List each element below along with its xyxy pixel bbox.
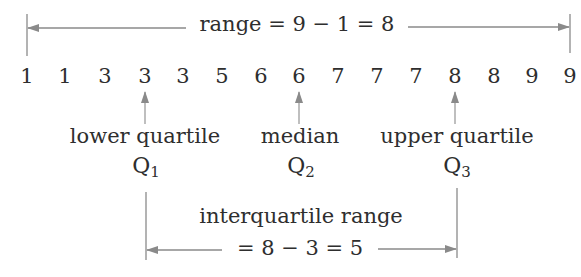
iqr-label: interquartile range <box>199 206 403 227</box>
data-value: 6 <box>254 66 267 87</box>
data-value: 3 <box>176 66 189 87</box>
data-value: 7 <box>370 66 383 87</box>
data-value: 3 <box>138 66 151 87</box>
q1-symbol: Q1 <box>132 155 160 180</box>
upper-quartile-label: upper quartile <box>380 126 533 147</box>
data-value: 7 <box>409 66 422 87</box>
data-value: 9 <box>525 66 538 87</box>
data-value: 5 <box>215 66 228 87</box>
q3-symbol: Q3 <box>443 155 471 180</box>
iqr-formula: = 8 − 3 = 5 <box>237 238 363 259</box>
data-value: 8 <box>487 66 500 87</box>
data-value: 7 <box>331 66 344 87</box>
data-value: 1 <box>58 66 71 87</box>
lower-quartile-label: lower quartile <box>70 126 220 147</box>
data-value: 9 <box>563 66 576 87</box>
data-value: 6 <box>292 66 305 87</box>
q2-symbol: Q2 <box>287 155 315 180</box>
data-value: 1 <box>20 66 33 87</box>
data-value: 3 <box>98 66 111 87</box>
median-label: median <box>261 126 340 147</box>
range-label: range = 9 − 1 = 8 <box>200 14 395 35</box>
data-value: 8 <box>448 66 461 87</box>
